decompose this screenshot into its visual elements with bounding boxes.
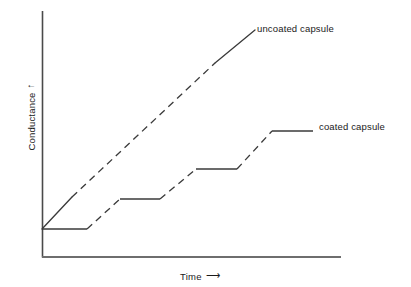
coated-riser-3 [237,131,272,169]
x-axis-label-text: Time [180,271,202,282]
series-coated-capsule [42,131,313,229]
uncoated-dashed-middle-segment [72,63,215,197]
y-axis-label-text: Conductance [26,92,37,150]
x-axis-label: Time⟶ [145,266,255,284]
y-axis-label: Conductance↑ [21,47,39,187]
uncoated-solid-start-segment [42,197,72,229]
coated-capsule-label: coated capsule [319,121,385,132]
conductance-vs-time-chart: uncoated capsule coated capsule Time⟶ Co… [0,0,411,287]
coated-riser-1 [87,199,120,229]
uncoated-capsule-label: uncoated capsule [257,23,334,34]
uncoated-solid-end-segment [215,30,255,63]
x-axis-arrow-icon: ⟶ [206,270,220,281]
chart-canvas [0,0,411,287]
coated-riser-2 [160,169,196,199]
y-axis-arrow-icon: ↑ [25,83,36,88]
